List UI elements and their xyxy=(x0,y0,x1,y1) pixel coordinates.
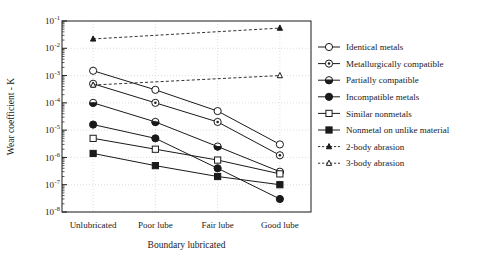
marker-open-square xyxy=(277,171,283,177)
marker-open-circle xyxy=(214,107,221,114)
marker-filled-circle xyxy=(276,195,283,202)
y-axis-tick-label: 10-6 xyxy=(45,151,61,163)
marker-filled-circle xyxy=(152,135,159,142)
marker-open-square xyxy=(90,135,96,141)
legend-item[interactable]: Similar nonmetals xyxy=(318,109,412,119)
y-axis-tick-label: 10-2 xyxy=(45,41,60,53)
series-3-body-abrasion xyxy=(91,73,283,88)
series-identical-metals xyxy=(90,67,284,148)
marker-dot-circle xyxy=(154,102,157,105)
y-axis-tick-label: 10-7 xyxy=(45,178,61,190)
x-axis-tick-label: Poor lube xyxy=(138,220,173,230)
y-axis-tick-label: 10-4 xyxy=(45,96,61,108)
series-line xyxy=(93,138,280,173)
svg-text:10: 10 xyxy=(45,16,55,26)
marker-open-circle xyxy=(90,67,97,74)
y-axis-tick-label: 10-8 xyxy=(45,205,60,217)
x-axis-tick-label: Unlubricated xyxy=(70,220,117,230)
x-axis-title: Boundary lubricated xyxy=(148,240,226,250)
svg-text:10: 10 xyxy=(45,43,55,53)
marker-filled-circle xyxy=(214,165,221,172)
marker-filled-triangle xyxy=(326,144,331,149)
marker-open-circle xyxy=(276,141,283,148)
series-line xyxy=(93,84,280,155)
legend-label: Nonmetal on unlike material xyxy=(346,125,450,135)
marker-open-circle xyxy=(152,86,159,93)
marker-filled-square xyxy=(152,163,158,169)
svg-text:10: 10 xyxy=(45,207,55,217)
marker-dot-circle xyxy=(328,62,331,65)
marker-filled-square xyxy=(90,150,96,156)
series-line xyxy=(93,153,280,184)
y-axis-tick-label: 10-5 xyxy=(45,123,60,135)
legend-label: Incompatible metals xyxy=(346,92,420,102)
marker-filled-triangle xyxy=(91,36,96,41)
marker-open-square xyxy=(215,157,221,163)
svg-text:10: 10 xyxy=(45,71,55,81)
y-axis-tick-label: 10-1 xyxy=(45,14,60,26)
wear-coefficient-chart: 10-110-210-310-410-510-610-710-8Unlubric… xyxy=(0,0,487,272)
svg-text:-5: -5 xyxy=(55,123,60,130)
series-line xyxy=(93,103,280,172)
series-line xyxy=(93,125,280,199)
svg-text:-3: -3 xyxy=(55,69,60,76)
svg-text:-8: -8 xyxy=(55,205,60,212)
marker-filled-circle xyxy=(325,93,332,100)
legend-label: Identical metals xyxy=(346,42,404,52)
marker-open-circle xyxy=(325,43,332,50)
series-line xyxy=(93,28,280,39)
series-line xyxy=(93,71,280,145)
x-axis-tick-label: Good lube xyxy=(261,220,299,230)
legend-item[interactable]: Partially compatible xyxy=(318,75,419,85)
legend-item[interactable]: Metallurgically compatible xyxy=(318,59,444,69)
svg-text:10: 10 xyxy=(45,98,55,108)
marker-filled-triangle xyxy=(277,25,282,30)
svg-text:-7: -7 xyxy=(55,178,61,185)
marker-filled-square xyxy=(326,127,332,133)
legend-label: Metallurgically compatible xyxy=(346,59,444,69)
svg-text:10: 10 xyxy=(45,125,55,135)
series-line xyxy=(93,76,280,85)
svg-text:10: 10 xyxy=(45,153,55,163)
marker-open-triangle xyxy=(277,73,282,78)
marker-filled-square xyxy=(215,173,221,179)
legend-label: 3-body abrasion xyxy=(346,158,405,168)
x-axis-tick-label: Fair lube xyxy=(202,220,234,230)
marker-open-triangle xyxy=(326,160,331,165)
legend-item[interactable]: Nonmetal on unlike material xyxy=(318,125,450,135)
legend-label: Similar nonmetals xyxy=(346,109,412,119)
legend-item[interactable]: 2-body abrasion xyxy=(318,142,405,152)
legend-item[interactable]: Incompatible metals xyxy=(318,92,420,102)
svg-text:10: 10 xyxy=(45,180,55,190)
plot-frame xyxy=(62,21,311,212)
series-partially-compatible xyxy=(90,99,284,175)
series-2-body-abrasion xyxy=(91,25,283,41)
svg-text:-4: -4 xyxy=(55,96,61,103)
marker-open-square xyxy=(326,110,332,116)
series-metallurgically-compatible xyxy=(90,80,284,159)
marker-filled-circle xyxy=(90,121,97,128)
y-axis-title: Wear coefficient - K xyxy=(6,78,16,156)
svg-text:-6: -6 xyxy=(55,151,61,158)
svg-text:-2: -2 xyxy=(55,41,60,48)
legend-item[interactable]: 3-body abrasion xyxy=(318,158,405,168)
chart-svg: 10-110-210-310-410-510-610-710-8Unlubric… xyxy=(0,0,487,272)
marker-dot-circle xyxy=(216,121,219,124)
legend-label: 2-body abrasion xyxy=(346,142,405,152)
marker-open-square xyxy=(152,146,158,152)
marker-filled-square xyxy=(277,182,283,188)
y-axis-tick-label: 10-3 xyxy=(45,69,60,81)
legend-label: Partially compatible xyxy=(346,75,419,85)
series-nonmetal-on-unlike-material xyxy=(90,150,283,187)
legend-item[interactable]: Identical metals xyxy=(318,42,404,52)
marker-dot-circle xyxy=(279,154,282,157)
svg-text:-1: -1 xyxy=(55,14,60,21)
